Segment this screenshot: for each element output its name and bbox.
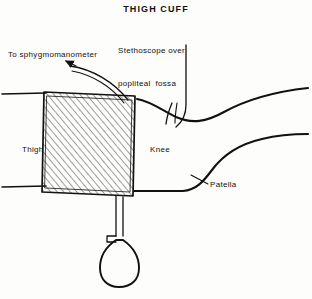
label-sphygmomanometer: To sphygmomanometer: [8, 50, 97, 59]
inflation-bulb: [100, 240, 139, 287]
lower-leg-contour-left: [2, 186, 46, 187]
label-knee: Knee: [150, 145, 170, 154]
label-stethoscope-line1: Stethoscope over: [118, 45, 185, 56]
label-stethoscope: Stethoscope over popliteal fossa: [118, 23, 185, 111]
tubing-direction-arrow: [66, 61, 76, 66]
label-thigh: Thigh: [22, 145, 44, 154]
label-patella: Patella: [210, 180, 237, 189]
label-stethoscope-line2: popliteal fossa: [118, 78, 185, 89]
upper-leg-contour-left: [2, 93, 46, 94]
figure-canvas: THIGH CUFF: [0, 0, 312, 299]
